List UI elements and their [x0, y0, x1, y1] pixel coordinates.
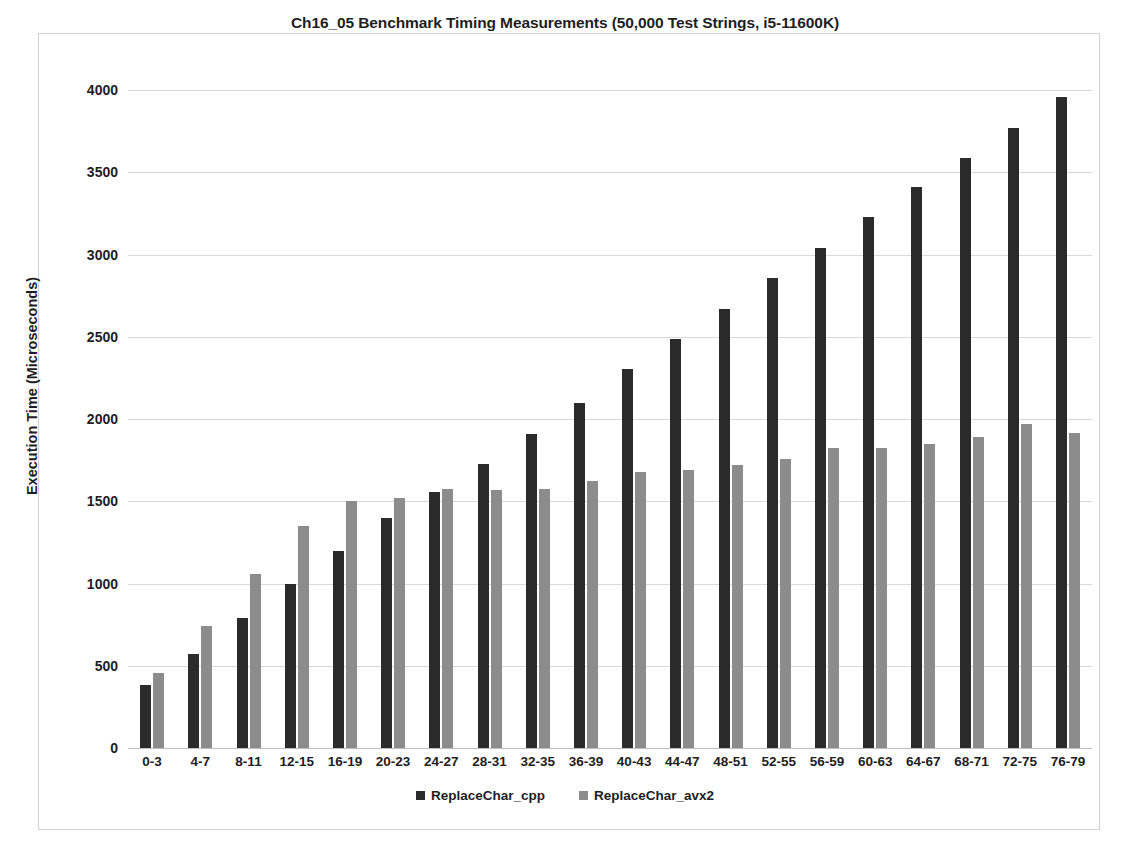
bar-ReplaceChar_avx2-8-11[interactable]: [250, 574, 261, 748]
x-tick-44-47: 44-47: [658, 754, 706, 769]
bar-ReplaceChar_cpp-0-3[interactable]: [140, 685, 151, 748]
bar-group: [224, 90, 272, 748]
y-tick-0: 0: [110, 740, 118, 756]
bar-group: [899, 90, 947, 748]
bar-ReplaceChar_avx2-12-15[interactable]: [298, 526, 309, 748]
bar-ReplaceChar_cpp-56-59[interactable]: [815, 248, 826, 748]
bar-ReplaceChar_avx2-76-79[interactable]: [1069, 433, 1080, 748]
bar-ReplaceChar_cpp-36-39[interactable]: [574, 403, 585, 748]
bar-group: [465, 90, 513, 748]
bar-ReplaceChar_avx2-24-27[interactable]: [442, 489, 453, 748]
x-tick-48-51: 48-51: [706, 754, 754, 769]
x-tick-0-3: 0-3: [128, 754, 176, 769]
bar-group: [996, 90, 1044, 748]
bar-group: [273, 90, 321, 748]
chart-page: Ch16_05 Benchmark Timing Measurements (5…: [0, 0, 1130, 867]
legend-item-ReplaceChar_avx2[interactable]: ReplaceChar_avx2: [579, 788, 714, 803]
bar-ReplaceChar_avx2-36-39[interactable]: [587, 481, 598, 748]
x-tick-68-71: 68-71: [947, 754, 995, 769]
bar-ReplaceChar_avx2-68-71[interactable]: [973, 437, 984, 748]
bar-ReplaceChar_cpp-16-19[interactable]: [333, 551, 344, 748]
x-tick-36-39: 36-39: [562, 754, 610, 769]
bar-ReplaceChar_avx2-28-31[interactable]: [491, 490, 502, 748]
x-tick-16-19: 16-19: [321, 754, 369, 769]
bar-ReplaceChar_avx2-72-75[interactable]: [1021, 424, 1032, 748]
y-axis-tick-labels: 05001000150020002500300035004000: [60, 90, 118, 748]
bar-ReplaceChar_cpp-64-67[interactable]: [911, 187, 922, 748]
y-tick-1000: 1000: [87, 576, 118, 592]
bar-ReplaceChar_avx2-16-19[interactable]: [346, 501, 357, 748]
bar-ReplaceChar_cpp-32-35[interactable]: [526, 434, 537, 748]
bar-ReplaceChar_cpp-52-55[interactable]: [767, 278, 778, 748]
bar-ReplaceChar_cpp-48-51[interactable]: [719, 309, 730, 748]
x-tick-32-35: 32-35: [514, 754, 562, 769]
bar-ReplaceChar_cpp-40-43[interactable]: [622, 369, 633, 748]
x-tick-4-7: 4-7: [176, 754, 224, 769]
bar-group: [706, 90, 754, 748]
bar-ReplaceChar_avx2-40-43[interactable]: [635, 472, 646, 748]
bar-ReplaceChar_cpp-60-63[interactable]: [863, 217, 874, 748]
gridline-0: [128, 748, 1092, 749]
x-tick-72-75: 72-75: [996, 754, 1044, 769]
bar-group: [562, 90, 610, 748]
x-tick-28-31: 28-31: [465, 754, 513, 769]
bar-group: [1044, 90, 1092, 748]
bar-ReplaceChar_cpp-68-71[interactable]: [960, 158, 971, 748]
legend-swatch-icon: [416, 791, 425, 800]
bar-ReplaceChar_avx2-48-51[interactable]: [732, 465, 743, 748]
bar-group: [417, 90, 465, 748]
bar-group: [369, 90, 417, 748]
x-tick-12-15: 12-15: [273, 754, 321, 769]
chart-legend: ReplaceChar_cppReplaceChar_avx2: [0, 788, 1130, 803]
bar-ReplaceChar_avx2-56-59[interactable]: [828, 448, 839, 748]
bar-group: [610, 90, 658, 748]
bar-group: [755, 90, 803, 748]
x-tick-40-43: 40-43: [610, 754, 658, 769]
bar-group: [947, 90, 995, 748]
x-tick-24-27: 24-27: [417, 754, 465, 769]
legend-label: ReplaceChar_avx2: [594, 788, 714, 803]
bar-ReplaceChar_cpp-72-75[interactable]: [1008, 128, 1019, 748]
y-tick-1500: 1500: [87, 493, 118, 509]
y-tick-2000: 2000: [87, 411, 118, 427]
bar-ReplaceChar_cpp-76-79[interactable]: [1056, 97, 1067, 748]
x-tick-52-55: 52-55: [755, 754, 803, 769]
bar-ReplaceChar_avx2-52-55[interactable]: [780, 459, 791, 748]
x-axis-tick-labels: 0-34-78-1112-1516-1920-2324-2728-3132-35…: [128, 754, 1092, 769]
x-tick-64-67: 64-67: [899, 754, 947, 769]
bar-ReplaceChar_avx2-60-63[interactable]: [876, 448, 887, 748]
bar-group: [658, 90, 706, 748]
bar-ReplaceChar_avx2-64-67[interactable]: [924, 444, 935, 748]
bar-ReplaceChar_avx2-20-23[interactable]: [394, 498, 405, 748]
x-tick-60-63: 60-63: [851, 754, 899, 769]
x-tick-76-79: 76-79: [1044, 754, 1092, 769]
legend-swatch-icon: [579, 791, 588, 800]
bar-ReplaceChar_cpp-4-7[interactable]: [188, 654, 199, 748]
bar-group: [321, 90, 369, 748]
bar-group: [176, 90, 224, 748]
bar-ReplaceChar_cpp-8-11[interactable]: [237, 618, 248, 748]
y-axis-title: Execution Time (Microseconds): [24, 186, 40, 586]
legend-item-ReplaceChar_cpp[interactable]: ReplaceChar_cpp: [416, 788, 545, 803]
bar-ReplaceChar_cpp-20-23[interactable]: [381, 518, 392, 748]
y-tick-500: 500: [95, 658, 118, 674]
bar-group: [803, 90, 851, 748]
bar-group: [128, 90, 176, 748]
bar-ReplaceChar_avx2-44-47[interactable]: [683, 470, 694, 748]
bar-ReplaceChar_cpp-12-15[interactable]: [285, 584, 296, 748]
bar-ReplaceChar_avx2-4-7[interactable]: [201, 626, 212, 748]
bar-ReplaceChar_cpp-28-31[interactable]: [478, 464, 489, 748]
legend-label: ReplaceChar_cpp: [431, 788, 545, 803]
x-tick-8-11: 8-11: [224, 754, 272, 769]
y-tick-2500: 2500: [87, 329, 118, 345]
bar-ReplaceChar_cpp-44-47[interactable]: [670, 339, 681, 748]
bar-ReplaceChar_cpp-24-27[interactable]: [429, 492, 440, 748]
x-tick-56-59: 56-59: [803, 754, 851, 769]
bar-ReplaceChar_avx2-0-3[interactable]: [153, 673, 164, 748]
bar-group: [851, 90, 899, 748]
x-tick-20-23: 20-23: [369, 754, 417, 769]
y-tick-3500: 3500: [87, 164, 118, 180]
bar-ReplaceChar_avx2-32-35[interactable]: [539, 489, 550, 748]
bar-groups: [128, 90, 1092, 748]
y-tick-3000: 3000: [87, 247, 118, 263]
